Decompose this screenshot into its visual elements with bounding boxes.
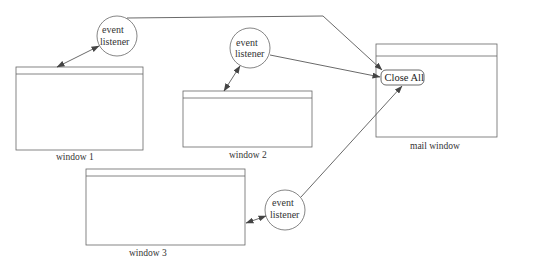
edge-listener3-closeall bbox=[301, 86, 402, 197]
window-3: window 3 bbox=[86, 169, 245, 258]
close-all-label: Close All bbox=[385, 72, 424, 83]
listener-1-line2: listener bbox=[100, 36, 130, 47]
listener-2-line1: event bbox=[236, 37, 258, 48]
mail-window: mail window bbox=[376, 44, 497, 151]
diagram-canvas: window 1 window 2 window 3 mail window C… bbox=[0, 0, 537, 268]
listener-1-line1: event bbox=[102, 24, 124, 35]
edge-listener2-closeall bbox=[270, 55, 380, 77]
window-1: window 1 bbox=[16, 67, 143, 162]
mail-window-label: mail window bbox=[410, 141, 460, 151]
listener-2-line2: listener bbox=[235, 48, 265, 59]
event-listener-1: event listener bbox=[97, 16, 137, 56]
event-listener-2: event listener bbox=[230, 28, 270, 68]
event-listener-3: event listener bbox=[265, 190, 305, 230]
edge-listener3-window3 bbox=[246, 216, 266, 223]
window-2-label: window 2 bbox=[229, 150, 267, 160]
listener-3-line2: listener bbox=[270, 209, 300, 220]
window-3-label: window 3 bbox=[129, 248, 167, 258]
window-1-label: window 1 bbox=[56, 152, 94, 162]
window-2: window 2 bbox=[183, 91, 312, 160]
close-all-button[interactable]: Close All bbox=[381, 70, 424, 85]
edge-listener1-window1 bbox=[57, 46, 99, 67]
listener-3-line1: event bbox=[272, 197, 294, 208]
edge-listener2-window2 bbox=[224, 66, 240, 91]
